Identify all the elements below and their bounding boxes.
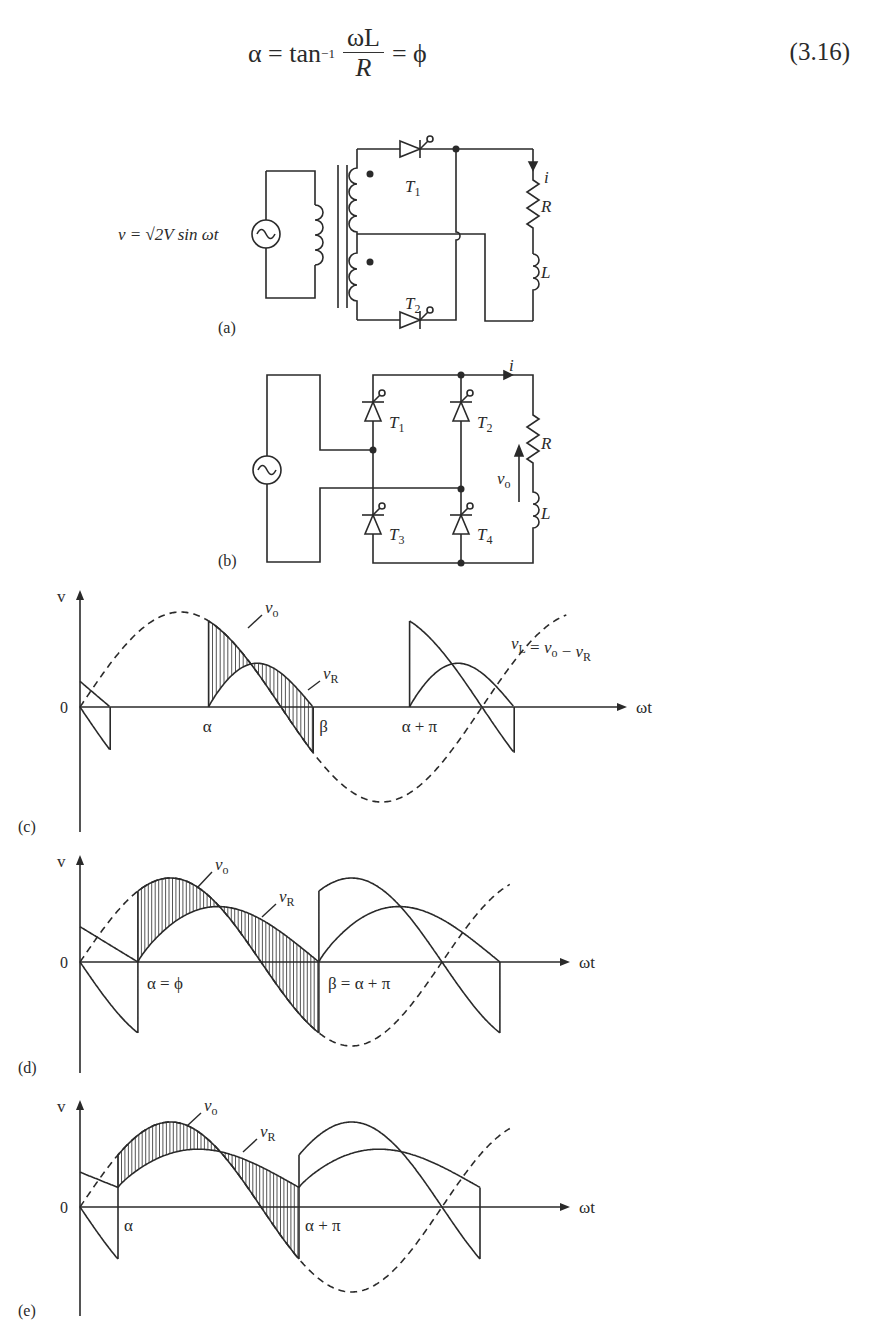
label-l: L <box>540 504 550 523</box>
annotation-vo: vo <box>204 1096 218 1118</box>
label-vo: vo <box>497 469 511 491</box>
center-tap-wire <box>357 234 533 321</box>
primary-coil-icon <box>315 205 323 265</box>
y-axis-label: v <box>57 1097 66 1116</box>
label-r: R <box>540 434 552 453</box>
vr-curve <box>80 1149 480 1187</box>
annotation-vr: vR <box>260 1122 276 1144</box>
label-i: i <box>509 356 514 375</box>
polarity-dot-icon <box>367 171 374 178</box>
x-axis-label: ωt <box>579 1198 595 1217</box>
vo-curve <box>80 1122 480 1259</box>
panel-label-a: (a) <box>218 319 236 337</box>
current-arrow-icon <box>529 162 537 170</box>
x-axis-label: ωt <box>579 953 595 972</box>
vo-curve <box>80 621 514 753</box>
panel-label: (e) <box>18 1302 36 1320</box>
hatched-area-vl <box>209 621 313 752</box>
waveform-panel-d: v0ωt(d)vovRα = ϕβ = α + π <box>18 852 595 1077</box>
tick-beta-alpha-plus-pi: β = α + π <box>328 974 391 993</box>
waveform-panel-e: v0ωt(e)vovRαα + π <box>18 1096 595 1320</box>
annotation-vo: vo <box>215 855 229 877</box>
source-label: v = √2V sin ωt <box>118 225 220 244</box>
x-axis-arrow-icon <box>560 958 570 966</box>
y-axis-arrow-icon <box>76 1100 84 1110</box>
label-t2: T2 <box>477 413 492 435</box>
tick-alpha: α <box>203 717 212 736</box>
y-axis-label: v <box>57 852 66 871</box>
tick-alpha-plus-pi: α + π <box>402 717 438 736</box>
y-axis-arrow-icon <box>76 590 84 600</box>
ac-source-icon <box>253 456 281 484</box>
label-i: i <box>544 168 549 187</box>
origin-label: 0 <box>60 699 68 716</box>
panel-label-b: (b) <box>218 552 237 570</box>
tick-beta: β <box>319 717 328 736</box>
origin-label: 0 <box>60 1199 68 1216</box>
inductor-l-icon <box>533 254 539 321</box>
origin-label: 0 <box>60 954 68 971</box>
tick-alpha-phi: α = ϕ <box>147 974 183 993</box>
waveform-panel-c: v0ωt(c)vovRvL = vo − vRαβα + π <box>18 587 652 836</box>
y-axis-arrow-icon <box>76 855 84 865</box>
annotation-vo: vo <box>265 598 279 620</box>
figure-canvas: v0ωt(c)vovRvL = vo − vRαβα + π v0ωt(d)vo… <box>0 0 883 1342</box>
annotation-vr: vR <box>279 887 295 909</box>
thyristor-t1-icon <box>400 136 433 158</box>
label-t1: T1 <box>405 177 420 199</box>
label-r: R <box>540 197 552 216</box>
label-t4: T4 <box>477 525 492 547</box>
panel-label: (c) <box>18 818 36 836</box>
x-axis-label: ωt <box>636 698 652 717</box>
label-t2: T2 <box>405 294 420 316</box>
x-axis-arrow-icon <box>560 1203 570 1211</box>
y-axis-label: v <box>57 587 66 606</box>
label-t1: T1 <box>389 413 404 435</box>
annotation-vr: vR <box>323 664 339 686</box>
x-axis-arrow-icon <box>617 703 627 711</box>
ac-source-icon <box>252 220 280 248</box>
label-l: L <box>540 263 550 282</box>
tick-alpha: α <box>124 1216 133 1235</box>
tick-alpha-plus-pi: α + π <box>305 1216 341 1235</box>
secondary-coil-icon <box>349 149 357 320</box>
annotation-vl: vL = vo − vR <box>511 634 591 664</box>
panel-label: (d) <box>18 1059 37 1077</box>
label-t3: T3 <box>389 525 404 547</box>
circuit-a <box>252 136 539 329</box>
